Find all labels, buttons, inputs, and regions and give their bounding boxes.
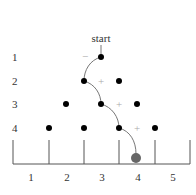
bin-label-3: 3 <box>99 171 105 183</box>
row-label-1: 1 <box>12 51 18 63</box>
peg <box>63 101 69 107</box>
peg <box>98 101 104 107</box>
sign-plus-row4: + <box>134 122 140 134</box>
bins <box>13 140 190 164</box>
peg <box>81 78 87 84</box>
bin-label-2: 2 <box>64 171 70 183</box>
pegs <box>46 54 158 131</box>
start-label: start <box>92 32 111 44</box>
peg <box>134 101 140 107</box>
sign-plus-row2: + <box>98 75 104 87</box>
ball-path <box>84 57 136 154</box>
row-label-2: 2 <box>12 75 18 87</box>
peg <box>98 54 104 60</box>
peg <box>81 125 87 131</box>
peg <box>152 125 158 131</box>
peg <box>116 78 122 84</box>
sign-minus-row1: − <box>82 50 88 62</box>
bin-label-4: 4 <box>135 171 141 183</box>
galton-board-diagram: start 1 2 3 4 − + + + 1 <box>0 0 196 195</box>
bin-label-1: 1 <box>28 171 34 183</box>
sign-plus-row3: + <box>116 98 122 110</box>
bin-label-5: 5 <box>170 171 176 183</box>
peg <box>116 125 122 131</box>
row-label-4: 4 <box>12 122 18 134</box>
peg <box>46 125 52 131</box>
row-label-3: 3 <box>12 98 18 110</box>
ball <box>131 153 141 163</box>
